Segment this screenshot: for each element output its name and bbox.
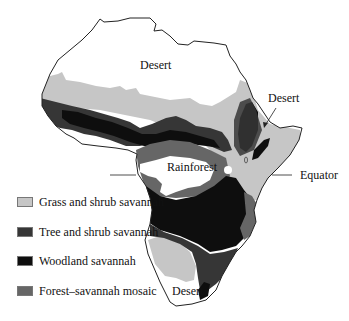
swatch-grass [17, 197, 33, 207]
label-equator: Equator [300, 169, 338, 181]
label-rainforest: Rainforest [167, 161, 217, 173]
label-desert-horn: Desert [268, 92, 299, 104]
legend-label: Grass and shrub savannah [39, 196, 164, 208]
legend-label: Woodland savannah [39, 255, 136, 267]
label-desert-south: Desert [172, 285, 203, 297]
legend-label: Forest–savannah mosaic [39, 285, 157, 297]
desert-arrow-line [266, 108, 276, 124]
swatch-woodland [17, 256, 33, 266]
swatch-tree [17, 227, 33, 237]
lake-victoria [224, 166, 232, 174]
swatch-forest-mosaic [17, 286, 33, 296]
legend-label: Tree and shrub savannah [39, 226, 158, 238]
label-desert-north: Desert [140, 59, 171, 71]
